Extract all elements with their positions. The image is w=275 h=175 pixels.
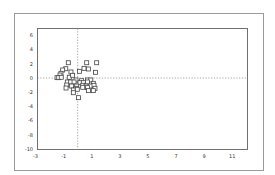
x-tick-label: -3 (33, 153, 38, 159)
square-marker (86, 89, 90, 93)
y-tick-label: -4 (28, 103, 33, 109)
y-tick-label: 2 (30, 61, 33, 67)
scatter-chart: 6420-2-4-6-8-10 -3-11357911 (0, 0, 275, 175)
reference-lines (38, 29, 248, 150)
x-tick-label: 3 (118, 153, 121, 159)
x-tick-label: 7 (174, 153, 177, 159)
square-marker (71, 91, 75, 95)
square-marker (64, 86, 68, 90)
square-marker (85, 61, 89, 65)
x-tick-label: 1 (90, 153, 93, 159)
square-marker (71, 73, 75, 77)
square-marker (85, 80, 89, 84)
y-tick-label: 4 (30, 46, 33, 52)
square-marker (91, 89, 95, 93)
y-tick-label: 6 (30, 32, 33, 38)
square-marker (66, 61, 70, 65)
square-marker (81, 85, 85, 89)
square-marker (70, 84, 74, 88)
figure-border (15, 14, 264, 171)
x-tick-label: -1 (61, 153, 66, 159)
y-axis-tick-labels: 6420-2-4-6-8-10 (25, 32, 33, 152)
square-marker (95, 61, 99, 65)
square-marker (76, 96, 80, 100)
plot-area-frame (38, 29, 248, 150)
y-tick-label: -2 (28, 89, 33, 95)
data-points (55, 61, 99, 100)
square-marker (59, 75, 63, 79)
square-marker (93, 70, 97, 74)
square-marker (72, 80, 76, 84)
x-tick-label: 11 (229, 153, 235, 159)
square-marker (75, 87, 79, 91)
square-marker (86, 67, 90, 71)
y-tick-label: -10 (25, 146, 33, 152)
x-tick-label: 5 (146, 153, 149, 159)
x-tick-label: 9 (203, 153, 206, 159)
y-tick-label: -6 (28, 117, 33, 123)
y-tick-label: 0 (30, 75, 33, 81)
square-marker (77, 69, 81, 73)
x-axis-tick-labels: -3-11357911 (33, 153, 235, 159)
y-tick-label: -8 (28, 132, 33, 138)
square-marker (82, 66, 86, 70)
